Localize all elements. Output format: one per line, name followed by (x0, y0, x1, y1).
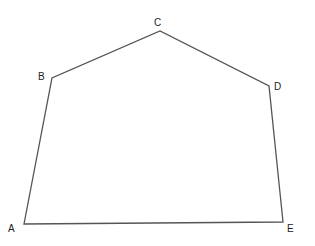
diagram-canvas: A B C D E (0, 0, 315, 246)
vertex-label-d: D (274, 81, 281, 92)
pentagon-shape (24, 31, 283, 224)
pentagon-diagram: A B C D E (0, 0, 315, 246)
vertex-label-c: C (154, 17, 161, 28)
vertex-label-e: E (287, 223, 294, 234)
vertex-label-a: A (8, 223, 15, 234)
vertex-label-b: B (38, 71, 45, 82)
